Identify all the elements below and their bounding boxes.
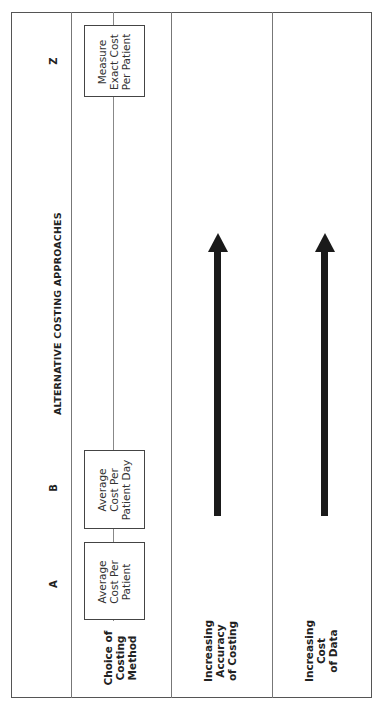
arrow-up-icon xyxy=(315,233,335,252)
row-label-accuracy: Increasing Accuracy of Costing xyxy=(203,606,241,696)
row-divider-accuracy xyxy=(272,12,273,698)
arrow-shaft xyxy=(321,251,328,516)
method-box-b: Average Cost Per Patient Day xyxy=(84,450,145,529)
column-letter-a: A xyxy=(48,577,60,591)
row-divider-methods xyxy=(171,12,172,698)
arrow-up-icon xyxy=(208,233,228,252)
method-box-z: Measure Exact Cost Per Patient xyxy=(84,25,145,97)
row-label-choice-of-method: Choice of Costing Method xyxy=(103,618,141,698)
method-label-b: Average Cost Per Patient Day xyxy=(97,450,133,530)
column-letter-z: Z xyxy=(48,54,60,68)
arrow-shaft xyxy=(214,251,221,516)
method-label-z: Measure Exact Cost Per Patient xyxy=(97,26,133,98)
method-label-a: Average Cost Per Patient xyxy=(97,544,133,620)
column-letter-b: B xyxy=(48,481,60,495)
row-label-cost-of-data: Increasing Cost of Data xyxy=(304,606,342,696)
diagram-title: ALTERNATIVE COSTING APPROACHES xyxy=(53,235,67,415)
header-divider xyxy=(71,12,72,698)
method-box-a: Average Cost Per Patient xyxy=(84,542,145,620)
